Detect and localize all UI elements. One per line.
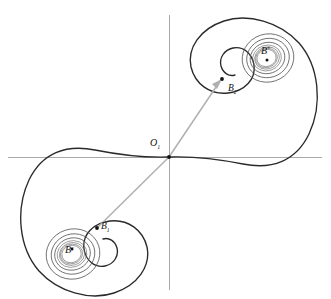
vector-origin-to-b1 (95, 157, 169, 230)
separatrix-upper-curve (169, 18, 317, 166)
figure-canvas (0, 0, 331, 299)
separatrix-lower-curve (21, 148, 169, 296)
separatrix-lower-group (21, 148, 169, 296)
label-point-b2-subscript: 2 (234, 89, 237, 95)
orbit-ring-upper-1 (236, 27, 300, 89)
focus-dot-upper (266, 59, 269, 62)
origin-dot (167, 155, 171, 159)
vector-b2-arrowhead (212, 79, 222, 89)
label-point-b1-subscript: 1 (107, 227, 110, 233)
separatrix-upper-group (169, 18, 317, 166)
label-point-b1: B1 (101, 222, 110, 232)
phase-portrait-figure: O1 B+ B− B1 B2 (0, 0, 331, 299)
label-origin: O1 (150, 138, 160, 148)
vector-b2-shaft (169, 87, 216, 157)
orbit-rings-upper (236, 27, 300, 89)
label-focus-upper-superscript: + (267, 45, 270, 51)
label-focus-lower: B− (65, 245, 74, 255)
label-focus-upper: B+ (261, 46, 270, 56)
label-origin-subscript: 1 (157, 144, 160, 150)
vector-b1-shaft (98, 157, 169, 227)
label-point-b2: B2 (228, 84, 237, 94)
point-dot-b1 (95, 226, 99, 230)
label-focus-lower-superscript: − (71, 244, 74, 250)
point-dot-b2 (220, 77, 224, 81)
vector-origin-to-b2 (169, 77, 224, 157)
